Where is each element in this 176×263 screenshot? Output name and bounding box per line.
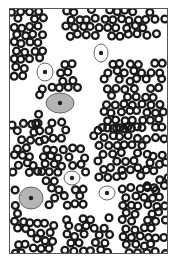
- red-blood-cell: [92, 15, 99, 22]
- red-blood-cell: [87, 23, 94, 30]
- red-blood-cell: [18, 25, 25, 32]
- red-blood-cell: [104, 24, 111, 31]
- red-blood-cell: [102, 16, 109, 23]
- red-blood-cell: [127, 166, 134, 173]
- red-blood-cell: [31, 129, 38, 136]
- red-blood-cell: [147, 117, 154, 124]
- red-blood-cell: [62, 23, 69, 30]
- red-blood-cell: [108, 33, 115, 40]
- red-blood-cell: [76, 239, 83, 246]
- red-blood-cell: [116, 76, 123, 83]
- red-blood-cell: [64, 69, 71, 76]
- red-blood-cell: [104, 174, 111, 181]
- red-blood-cell: [87, 247, 94, 254]
- red-blood-cell: [31, 16, 38, 23]
- red-blood-cell: [69, 145, 76, 152]
- red-blood-cell: [96, 174, 103, 181]
- red-blood-cell: [161, 202, 168, 209]
- red-blood-cell: [65, 222, 72, 229]
- red-blood-cell: [152, 218, 159, 225]
- red-blood-cell: [57, 70, 64, 77]
- red-blood-cell: [117, 33, 124, 40]
- red-blood-cell: [26, 169, 33, 176]
- red-blood-cell: [101, 240, 108, 247]
- red-blood-cell: [116, 133, 123, 140]
- cell-nucleus: [99, 51, 103, 55]
- red-blood-cell: [63, 9, 70, 14]
- red-blood-cell: [21, 49, 28, 56]
- red-blood-cell: [10, 9, 15, 16]
- red-blood-cell: [12, 202, 19, 209]
- red-blood-cell: [96, 24, 103, 31]
- red-blood-cell: [71, 24, 78, 31]
- red-blood-cell: [18, 40, 25, 47]
- red-blood-cell: [153, 30, 160, 37]
- red-blood-cell: [114, 67, 121, 74]
- red-blood-cell: [132, 241, 139, 248]
- red-blood-cell: [134, 135, 141, 142]
- red-blood-cell: [158, 75, 165, 82]
- red-blood-cell: [34, 39, 41, 46]
- red-blood-cell: [26, 9, 33, 15]
- red-blood-cell: [68, 17, 75, 24]
- red-blood-cell: [106, 9, 113, 13]
- red-blood-cell: [30, 245, 37, 252]
- red-blood-cell: [161, 135, 168, 142]
- red-blood-cell: [80, 215, 87, 222]
- red-blood-cell: [92, 32, 99, 39]
- red-blood-cell: [11, 73, 18, 80]
- red-blood-cell: [137, 185, 144, 192]
- red-blood-cell: [116, 60, 123, 67]
- red-blood-cell: [139, 124, 146, 131]
- red-blood-cell: [129, 9, 136, 15]
- red-blood-cell: [69, 60, 76, 67]
- red-blood-cell: [82, 169, 89, 176]
- red-blood-cell: [10, 169, 16, 176]
- red-blood-cell: [118, 15, 125, 22]
- red-blood-cell: [133, 107, 140, 114]
- red-blood-cell: [14, 210, 21, 217]
- red-blood-cell: [35, 23, 42, 30]
- red-blood-cell: [46, 245, 53, 252]
- red-blood-cell: [64, 231, 71, 238]
- red-blood-cell: [133, 75, 140, 82]
- red-blood-cell: [105, 142, 112, 149]
- red-blood-cell: [101, 134, 108, 141]
- red-blood-cell: [119, 216, 126, 223]
- cell-nucleus: [58, 101, 62, 105]
- red-blood-cell: [118, 149, 125, 156]
- red-blood-cell: [156, 194, 163, 201]
- red-blood-cell: [14, 225, 21, 232]
- red-blood-cell: [147, 85, 154, 92]
- red-blood-cell: [128, 218, 135, 225]
- cell-nucleus: [70, 176, 74, 180]
- red-blood-cell: [18, 249, 25, 254]
- red-blood-cell: [108, 110, 115, 117]
- red-blood-cell: [113, 85, 120, 92]
- red-blood-cell: [112, 24, 119, 31]
- red-blood-cell: [66, 154, 73, 161]
- red-blood-cell: [144, 32, 151, 39]
- red-blood-cell: [142, 16, 149, 23]
- red-blood-cell: [106, 214, 113, 221]
- red-blood-cell: [137, 233, 144, 240]
- red-blood-cell: [58, 119, 65, 126]
- red-blood-cell: [134, 164, 141, 171]
- red-blood-cell: [151, 60, 158, 67]
- red-blood-cell: [34, 220, 41, 227]
- red-blood-cell: [108, 92, 115, 99]
- red-blood-cell: [122, 194, 129, 201]
- illustration-frame: [9, 8, 168, 254]
- red-blood-cell: [58, 135, 65, 142]
- red-blood-cell: [13, 48, 20, 55]
- red-blood-cell: [12, 63, 19, 70]
- red-blood-cell: [19, 72, 26, 79]
- red-blood-cell: [139, 117, 146, 124]
- red-blood-cell: [36, 138, 43, 145]
- red-blood-cell: [148, 102, 155, 109]
- red-blood-cell: [144, 201, 151, 208]
- red-blood-cell: [161, 16, 168, 23]
- red-blood-cell: [114, 9, 121, 15]
- red-blood-cell: [143, 136, 150, 143]
- red-blood-cell: [46, 127, 53, 134]
